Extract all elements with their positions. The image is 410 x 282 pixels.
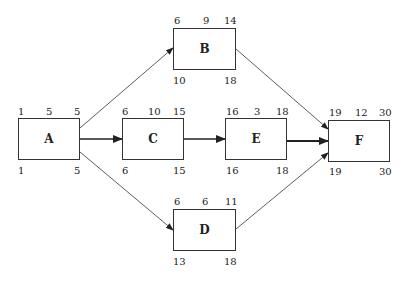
edge-b-f	[236, 49, 328, 129]
node-d-late-start: 13	[173, 257, 186, 267]
node-d-early-start: 6	[174, 197, 180, 207]
node-d-label: D	[199, 223, 209, 237]
node-a-early-start: 1	[18, 107, 24, 117]
node-e-early-start: 16	[226, 107, 239, 117]
node-c-late-start: 6	[122, 166, 128, 176]
node-b-duration: 9	[203, 16, 209, 26]
node-c-label: C	[148, 132, 158, 146]
node-c-early-finish: 15	[173, 107, 186, 117]
node-b-early-start: 6	[174, 16, 180, 26]
node-f-late-finish: 30	[379, 167, 392, 177]
node-a-late-finish: 5	[74, 166, 80, 176]
node-e-early-finish: 18	[276, 107, 289, 117]
node-c: C	[122, 118, 184, 160]
node-d-early-finish: 11	[225, 197, 238, 207]
node-f-duration: 12	[355, 108, 368, 118]
node-e: E	[225, 118, 287, 160]
node-b-early-finish: 14	[224, 16, 237, 26]
node-a-late-start: 1	[18, 166, 24, 176]
node-a-duration: 5	[46, 107, 52, 117]
node-c-early-start: 6	[122, 107, 128, 117]
node-e-duration: 3	[254, 107, 260, 117]
node-f: F	[328, 120, 390, 162]
node-d-late-finish: 18	[224, 257, 237, 267]
node-a: A	[18, 118, 80, 160]
node-a-label: A	[44, 132, 53, 146]
node-c-duration: 10	[148, 107, 161, 117]
node-e-label: E	[251, 132, 260, 146]
node-b: B	[173, 28, 236, 70]
node-f-early-finish: 30	[379, 108, 392, 118]
node-a-early-finish: 5	[74, 107, 80, 117]
node-c-late-finish: 15	[173, 166, 186, 176]
edge-a-d	[80, 152, 173, 230]
node-f-early-start: 19	[329, 108, 342, 118]
node-f-label: F	[355, 134, 364, 148]
node-d: D	[173, 209, 236, 251]
node-f-late-start: 19	[329, 167, 342, 177]
node-e-late-finish: 18	[276, 166, 289, 176]
node-b-late-finish: 18	[224, 76, 237, 86]
node-e-late-start: 16	[226, 166, 239, 176]
node-b-label: B	[199, 42, 209, 56]
node-d-duration: 6	[202, 197, 208, 207]
node-b-late-start: 10	[173, 76, 186, 86]
